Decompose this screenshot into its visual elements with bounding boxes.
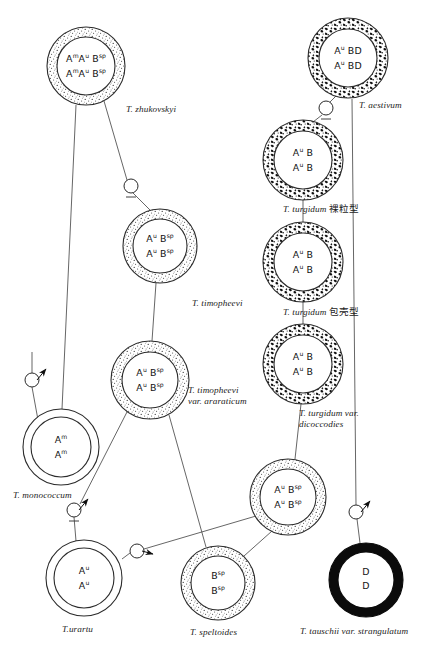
genome-formula-t-turgidum-var-dicoccodies: Au BAu B — [243, 350, 363, 377]
species-label-t-monococcum: T. monococcum — [13, 490, 72, 501]
junction-circle-cross-node-monococcum — [25, 373, 39, 387]
species-label-t-urartu: T.urartu — [62, 624, 93, 635]
species-label-t-speltoides: T. speltoides — [190, 627, 237, 638]
edge-junction1-to-timopheevi — [133, 193, 150, 210]
edge-junction2-stem-down — [32, 387, 38, 420]
species-label-t-turgidum-var-dicoccodies: T. turgidum var.dicoccodies — [299, 408, 359, 430]
genome-formula-hybrid-au-bsp: Au BspAu Bsp — [228, 483, 348, 510]
genome-formula-t-urartu: AuAu — [24, 564, 144, 591]
species-label-t-turgidum-naked: T. turgidum 裸粒型 — [283, 203, 359, 215]
junction-cross-node-monococcum[interactable] — [25, 369, 46, 387]
junction-circle-cross-node-urartu-hybrid — [130, 544, 144, 558]
species-label-t-turgidum-hulled: T. turgidum 包壳型 — [283, 306, 359, 318]
genome-formula-t-turgidum-naked: Au BAu B — [243, 146, 363, 173]
junction-cross-node-urartu-speltoides[interactable] — [67, 499, 88, 521]
edge-junction4-to-hybrid — [144, 516, 256, 549]
edge-tauschii-to-aestivum — [357, 519, 360, 543]
species-label-t-timopheevi: T. timopheevi — [192, 298, 243, 309]
junction-cross-node-urartu-hybrid[interactable] — [130, 544, 153, 558]
genome-formula-t-timopheevi: Au BspAu Bsp — [100, 232, 220, 259]
species-label-t-zhukovskyi: T. zhukovskyi — [126, 104, 176, 115]
edge-araraticum-to-speltoides — [169, 415, 206, 547]
genome-formula-t-speltoides: BspBsp — [158, 569, 278, 596]
junction-arrow-cross-node-monococcum — [37, 369, 46, 380]
junction-arrow-cross-node-tauschii-aestivum — [361, 501, 370, 512]
edge-speltoides-to-hybrid — [244, 531, 272, 556]
edge-zhukovskyi-to-junction1 — [104, 101, 127, 180]
edge-zhukovskyi-to-monococcum — [62, 105, 76, 409]
genome-formula-t-tauschii-var-strangulatum: DD — [306, 566, 426, 591]
wheat-evolution-svg — [0, 0, 434, 653]
junction-arrow-cross-node-urartu-speltoides — [79, 499, 88, 510]
junction-circle-cross-node-zhukovskyi-timopheevi — [124, 179, 138, 193]
species-label-t-aestivum: T. aestivum — [359, 100, 402, 111]
species-label-t-tauschii-var-strangulatum: T. tauschii var. strangulatum — [300, 626, 408, 637]
genome-formula-t-aestivum: Au BDAu BD — [288, 44, 408, 71]
junction-circle-cross-node-urartu-speltoides — [67, 503, 81, 517]
genome-formula-t-turgidum-hulled: Au BAu B — [243, 248, 363, 275]
edge-naked-to-junction6 — [313, 115, 322, 122]
species-label-t-timopheevi-var-araraticum: T. timopheevivar. araraticum — [188, 385, 247, 407]
genome-formula-t-zhukovskyi: AmAu BspAmAu Bsp — [26, 52, 146, 79]
diagram-canvas: AmAu BspAmAu BspT. zhukovskyiAu BDAu BDT… — [0, 0, 434, 653]
junction-circle-cross-node-aestivum-turgidum — [319, 101, 333, 115]
junction-cross-node-tauschii-aestivum[interactable] — [349, 501, 370, 519]
junction-circle-cross-node-tauschii-aestivum — [349, 505, 363, 519]
edge-urartu-to-junction4 — [122, 553, 130, 559]
edge-timopheevi-to-araraticum — [152, 283, 156, 341]
junction-cross-node-zhukovskyi-timopheevi[interactable] — [124, 179, 138, 197]
node-layer — [23, 18, 403, 620]
genome-formula-t-monococcum: AmAm — [1, 433, 121, 460]
junction-cross-node-aestivum-turgidum[interactable] — [319, 101, 333, 119]
